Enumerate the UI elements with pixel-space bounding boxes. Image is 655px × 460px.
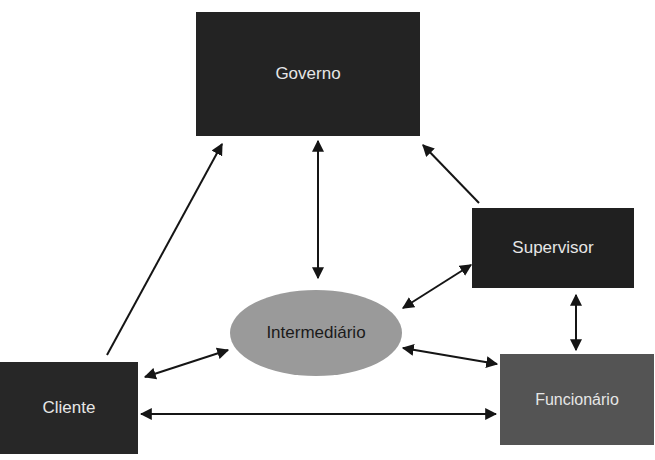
arrow-intermediario-supervisor (403, 265, 471, 308)
arrow-cliente-intermediario (145, 350, 228, 377)
arrow-intermediario-funcionario (403, 348, 497, 364)
arrow-cliente-to-governo (107, 144, 222, 355)
node-cliente: Cliente (0, 362, 138, 454)
arrow-supervisor-to-governo (423, 145, 479, 203)
node-funcionario: Funcionário (500, 354, 654, 445)
node-intermediario-label: Intermediário (266, 323, 365, 343)
node-cliente-label: Cliente (43, 398, 96, 418)
node-governo-label: Governo (275, 64, 340, 84)
node-supervisor-label: Supervisor (512, 238, 593, 258)
node-funcionario-label: Funcionário (535, 391, 619, 409)
node-governo: Governo (196, 12, 420, 136)
node-supervisor: Supervisor (472, 208, 634, 288)
node-intermediario: Intermediário (230, 290, 402, 376)
